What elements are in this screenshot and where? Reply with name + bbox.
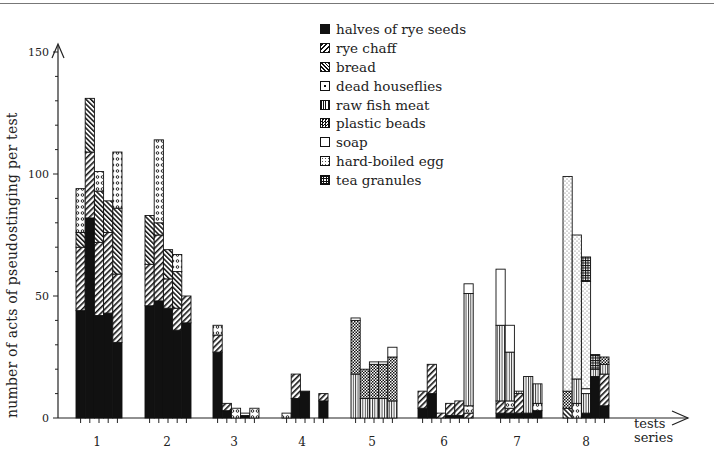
bar-segment xyxy=(76,233,85,248)
bar-group-8 xyxy=(563,176,609,418)
stacked-bar xyxy=(163,250,172,418)
bar-segment xyxy=(514,413,523,418)
blank-swatch-icon xyxy=(320,137,330,147)
bar-segment xyxy=(163,279,172,308)
fine-dots-swatch-icon xyxy=(320,156,330,166)
solid-black-swatch-icon xyxy=(320,24,330,34)
bar-segment xyxy=(427,364,436,393)
bar-segment xyxy=(360,398,369,418)
bar-segment xyxy=(379,364,388,398)
stacked-bar xyxy=(85,98,94,418)
stacked-bar xyxy=(145,215,154,418)
forward-hatch-swatch-icon xyxy=(320,43,330,53)
stacked-bar xyxy=(572,235,581,418)
bar-segment xyxy=(464,294,473,406)
bar-segment xyxy=(113,152,122,208)
bar-segment xyxy=(76,247,85,310)
bar-segment xyxy=(104,313,113,418)
stacked-bar xyxy=(418,391,427,418)
bar-segment xyxy=(319,394,328,401)
stacked-bar xyxy=(514,391,523,418)
bar-segment xyxy=(250,408,259,418)
x-tick-labels: 12345678 xyxy=(93,435,590,449)
stacked-bar xyxy=(173,255,182,418)
bar-group-4 xyxy=(282,374,328,418)
x-tick-label: 6 xyxy=(440,435,448,449)
bar-segment xyxy=(351,320,360,374)
bar-segment xyxy=(213,335,222,352)
stacked-bar xyxy=(533,384,542,418)
x-tick-label: 1 xyxy=(93,435,101,449)
bar-segment xyxy=(563,408,572,418)
bar-segment xyxy=(591,369,600,376)
x-tick-label: 3 xyxy=(230,435,238,449)
bar-segment xyxy=(379,362,388,364)
y-tick-label: 100 xyxy=(28,168,49,181)
bar-segment xyxy=(85,98,94,152)
legend-item-fish: raw fish meat xyxy=(320,95,466,114)
bar-segment xyxy=(182,296,191,323)
bar-segment xyxy=(600,374,609,406)
y-axis-label: number of acts of pseudostinging per tes… xyxy=(4,112,20,418)
stacked-bar xyxy=(496,269,505,418)
stacked-bar xyxy=(222,403,231,418)
bar-segment xyxy=(213,352,222,418)
checker-swatch-icon xyxy=(320,118,330,128)
stacked-bar xyxy=(104,201,113,418)
bar-segment xyxy=(505,325,514,352)
legend-item-rye-chaff: rye chaff xyxy=(320,39,466,58)
bar-segment xyxy=(291,398,300,418)
bar-segment xyxy=(351,318,360,320)
bar-segment xyxy=(418,391,427,408)
bar-segment xyxy=(282,413,291,418)
bar-segment xyxy=(319,401,328,418)
bar-segment xyxy=(369,362,378,364)
bar-group-5 xyxy=(351,318,397,418)
bar-segment xyxy=(581,394,590,414)
stacked-bar xyxy=(455,401,464,418)
stacked-bar xyxy=(76,189,85,418)
bar-group-7 xyxy=(496,269,542,418)
stacked-bar xyxy=(446,403,455,418)
bar-segment xyxy=(524,413,533,418)
legend-item-beads: plastic beads xyxy=(320,114,466,133)
stacked-bar xyxy=(291,374,300,418)
bar-segment xyxy=(154,235,163,301)
bar-group-3 xyxy=(213,325,259,418)
bar-segment xyxy=(173,255,182,272)
bar-segment xyxy=(581,281,590,388)
bar-segment xyxy=(360,369,369,398)
bar-segment xyxy=(369,398,378,418)
bar-segment xyxy=(213,325,222,335)
bar-segment xyxy=(581,413,590,418)
bar-segment xyxy=(113,274,122,342)
bar-segment xyxy=(600,357,609,364)
bar-segment xyxy=(418,408,427,418)
stacked-bar xyxy=(300,391,309,418)
bar-segment xyxy=(231,408,240,418)
bar-segment xyxy=(173,272,182,309)
bar-segment xyxy=(388,347,397,357)
bar-segment xyxy=(104,201,113,233)
stacked-bar xyxy=(282,413,291,418)
bar-segment xyxy=(496,413,505,418)
bar-segment xyxy=(173,330,182,418)
stacked-bar xyxy=(524,377,533,418)
bar-segment xyxy=(222,411,231,418)
bar-segment xyxy=(291,374,300,398)
y-tick-labels: 050100150 xyxy=(28,46,49,425)
back-hatch-swatch-icon xyxy=(320,62,330,72)
grid-swatch-icon xyxy=(320,175,330,185)
y-tick-label: 150 xyxy=(28,46,49,59)
bar-segment xyxy=(182,323,191,418)
bar-group-6 xyxy=(418,284,473,418)
bar-segment xyxy=(145,306,154,418)
stacked-bar xyxy=(360,369,369,418)
stacked-bar xyxy=(581,257,590,418)
stacked-bar xyxy=(241,413,250,418)
x-axis-label: tests series xyxy=(634,417,673,445)
bar-segment xyxy=(94,172,103,192)
bar-segment xyxy=(388,357,397,401)
bar-segment xyxy=(496,269,505,325)
bar-segment xyxy=(145,264,154,305)
